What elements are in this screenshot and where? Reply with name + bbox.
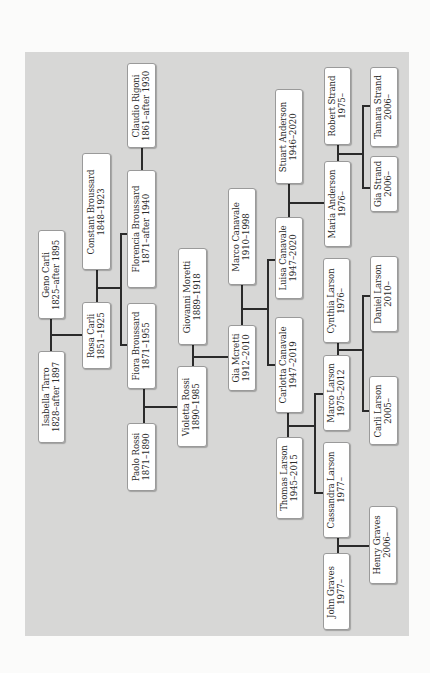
person-isabella-tarro: Isabella Tarro1828–after 1897	[38, 351, 65, 443]
person-carlotta-canavale: Carlotta Canavale1947–2019	[275, 317, 303, 413]
connector-line	[288, 202, 324, 204]
connector-line	[362, 295, 370, 297]
person-name: John Graves	[327, 566, 337, 618]
connector-line	[141, 148, 143, 170]
person-dates: 1871–after 1940	[142, 186, 152, 273]
person-name: Carli Larson	[374, 384, 384, 437]
connector-line	[314, 393, 323, 395]
person-dates: 1890–1985	[192, 377, 202, 435]
person-dates: 1976–	[337, 268, 347, 333]
person-dates: 1977–	[337, 451, 347, 528]
person-name: Robert Strand	[328, 76, 338, 137]
connector-line	[362, 295, 364, 411]
connector-line	[267, 259, 269, 365]
connector-line	[50, 334, 82, 336]
person-dates: 1871–1955	[142, 311, 152, 380]
person-dates: 1975–2012	[337, 363, 347, 423]
person-dates: 2010–	[384, 264, 394, 324]
person-dates: 1828–after 1897	[52, 362, 62, 432]
connector-line	[362, 187, 370, 189]
person-thomas-larson: Thomas Larson1945–2015	[276, 437, 303, 519]
connector-line	[120, 233, 122, 345]
person-florencia-broussard: Florencia Broussard1871–after 1940	[127, 170, 156, 288]
person-dates: 1910–1998	[242, 202, 252, 272]
person-dates: 2005–	[384, 384, 394, 437]
person-name: Isabella Tarro	[42, 362, 52, 432]
person-dates: 1848–1923	[97, 169, 107, 254]
person-dates: 1947–2019	[289, 327, 299, 404]
person-dates: 1912–2010	[242, 334, 252, 383]
person-dates: 1851–1925	[97, 312, 107, 359]
connector-line	[96, 287, 120, 289]
connector-line	[314, 492, 323, 494]
person-name: Constant Broussard	[87, 169, 97, 254]
person-claudio-rigoni: Claudio Rigoni1861–after 1930	[127, 63, 156, 148]
person-geno-carli: Geno Carli1825–after 1895	[38, 230, 65, 319]
person-marco-larson: Marco Larson1975–2012	[323, 355, 350, 431]
person-dates: 1976–	[338, 170, 348, 239]
person-dates: 1825–after 1895	[52, 239, 62, 309]
person-name: Paolo Rossi	[132, 433, 142, 481]
person-name: Cassandra Larson	[327, 451, 337, 528]
connector-line	[267, 364, 275, 366]
person-dates: 1975–	[338, 76, 348, 137]
connector-line	[337, 545, 369, 547]
person-gia-moretti: Gia Mcretti1912–2010	[228, 325, 256, 391]
person-maria-anderson: Maria Anderson1976–	[324, 161, 351, 247]
person-henry-graves: Henry Graves2006–	[369, 506, 397, 584]
person-name: Giovanni Moretti	[183, 260, 193, 333]
person-tamara-strand: Tamara Strand2006–	[370, 67, 398, 147]
connector-line	[96, 270, 98, 302]
person-carli-larson: Carli Larson2005–	[369, 376, 398, 445]
person-daniel-larson: Daniel Larson2010–	[370, 256, 398, 332]
person-stuart-anderson: Stuart Anderson1946–2020	[275, 89, 303, 184]
person-dates: 2006–	[384, 75, 394, 139]
person-name: Fiora Broussard	[132, 311, 142, 380]
person-luisa-canavale: Luisa Canavale1947–2020	[275, 217, 303, 299]
person-john-graves: John Graves1977–	[323, 553, 350, 630]
person-dates: 1889–1918	[193, 260, 203, 333]
person-name: Cynthia Larson	[327, 268, 337, 333]
person-dates: 1871–1890	[142, 433, 152, 481]
connector-line	[362, 105, 370, 107]
person-violetta-rossi: Violetta Rossi1890–1985	[177, 366, 207, 447]
connector-line	[288, 184, 290, 217]
person-name: Rosa Carli	[87, 312, 97, 359]
connector-line	[241, 308, 267, 310]
person-marco-canavale: Marco Canavale1910–1998	[228, 188, 256, 285]
person-paolo-rossi: Paolo Rossi1871–1890	[127, 423, 156, 491]
connector-line	[241, 285, 243, 325]
person-constant-broussard: Constant Broussard1848–1923	[82, 153, 111, 270]
person-dates: 1861–after 1930	[142, 70, 152, 140]
person-dates: 1977–	[337, 566, 347, 618]
connector-line	[362, 105, 364, 188]
person-dates: 1945–2015	[290, 445, 300, 511]
person-name: Marco Larson	[327, 363, 337, 423]
person-cassandra-larson: Cassandra Larson1977–	[323, 442, 350, 538]
person-gia-strand: Gia Strand2006–	[370, 156, 398, 212]
connector-line	[143, 406, 177, 408]
person-dates: 1947–2020	[289, 225, 299, 290]
connector-line	[267, 259, 275, 261]
person-cynthia-larson: Cynthia Larson1976–	[323, 258, 350, 343]
person-name: Maria Anderson	[328, 170, 338, 239]
connector-line	[287, 425, 314, 427]
person-fiora-broussard: Fiora Broussard1871–1955	[127, 303, 156, 389]
person-rosa-carli: Rosa Carli1851–1925	[82, 302, 111, 369]
person-dates: 2006–	[383, 515, 393, 574]
person-name: Thomas Larson	[280, 445, 290, 511]
person-name: Florencia Broussard	[132, 186, 142, 273]
person-giovanni-moretti: Giovanni Moretti1889–1918	[178, 248, 207, 345]
connector-line	[192, 356, 228, 358]
person-robert-strand: Robert Strand1975–	[324, 67, 351, 145]
person-dates: 2006–	[384, 161, 394, 207]
connector-line	[314, 393, 316, 493]
connector-line	[337, 153, 362, 155]
person-name: Claudio Rigoni	[132, 70, 142, 140]
person-dates: 1946–2020	[289, 101, 299, 171]
connector-line	[337, 349, 362, 351]
person-name: Geno Carli	[42, 239, 52, 309]
